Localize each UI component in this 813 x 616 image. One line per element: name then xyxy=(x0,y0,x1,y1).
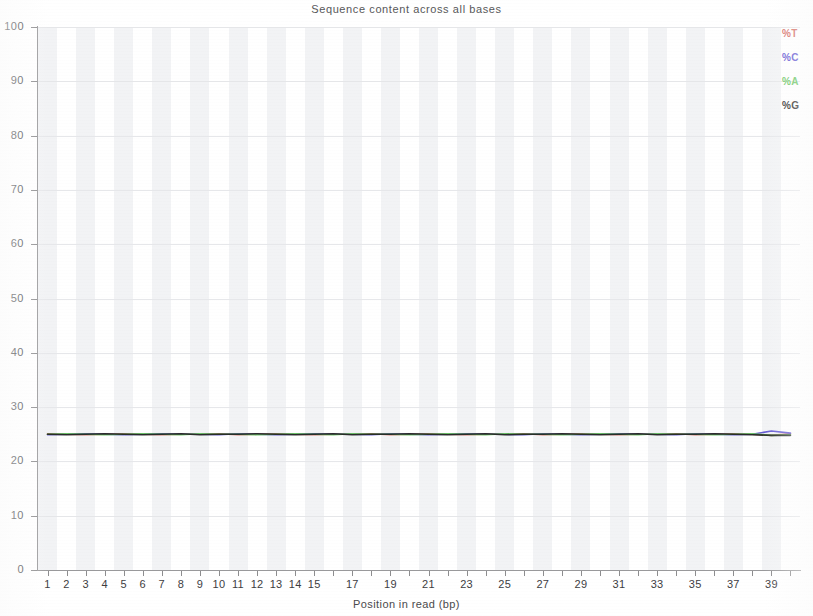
x-tick-label: 14 xyxy=(289,578,302,590)
x-tick-label: 13 xyxy=(270,578,283,590)
legend-item-pct-C: %C xyxy=(782,52,799,63)
x-tick-mark xyxy=(448,571,449,576)
x-tick-label: 25 xyxy=(498,578,511,590)
x-tick-mark xyxy=(314,571,315,576)
x-tick-label: 11 xyxy=(232,578,244,590)
y-tick-mark xyxy=(31,570,37,571)
y-tick-label: 0 xyxy=(0,563,24,575)
x-tick-label: 2 xyxy=(63,578,69,590)
x-tick-mark xyxy=(638,571,639,576)
x-tick-mark xyxy=(657,571,658,576)
x-tick-mark xyxy=(676,571,677,576)
x-tick-label: 39 xyxy=(765,578,778,590)
y-tick-label: 20 xyxy=(0,454,24,466)
x-tick-mark xyxy=(276,571,277,576)
y-tick-mark xyxy=(31,407,37,408)
x-tick-label: 35 xyxy=(689,578,702,590)
x-tick-mark xyxy=(771,571,772,576)
y-tick-label: 70 xyxy=(0,183,24,195)
x-tick-mark xyxy=(371,571,372,576)
chart-title: Sequence content across all bases xyxy=(0,3,813,15)
y-tick-mark xyxy=(31,461,37,462)
x-tick-label: 33 xyxy=(651,578,664,590)
x-tick-label: 12 xyxy=(251,578,264,590)
x-tick-label: 37 xyxy=(727,578,740,590)
y-tick-label: 90 xyxy=(0,74,24,86)
x-tick-mark xyxy=(714,571,715,576)
x-tick-mark xyxy=(390,571,391,576)
y-tick-label: 50 xyxy=(0,292,24,304)
x-tick-mark xyxy=(162,571,163,576)
y-tick-label: 100 xyxy=(0,20,24,32)
x-tick-mark xyxy=(695,571,696,576)
x-tick-mark xyxy=(600,571,601,576)
x-tick-mark xyxy=(219,571,220,576)
x-tick-label: 15 xyxy=(308,578,321,590)
y-tick-mark xyxy=(31,299,37,300)
x-tick-label: 5 xyxy=(121,578,127,590)
x-tick-label: 23 xyxy=(460,578,473,590)
y-tick-label: 60 xyxy=(0,237,24,249)
y-tick-label: 40 xyxy=(0,346,24,358)
x-axis-title: Position in read (bp) xyxy=(0,598,813,610)
x-tick-label: 9 xyxy=(197,578,203,590)
plot-area xyxy=(38,27,800,570)
y-tick-mark xyxy=(31,136,37,137)
legend-item-pct-G: %G xyxy=(782,100,799,111)
series-lines xyxy=(38,27,800,570)
x-tick-mark xyxy=(562,571,563,576)
y-tick-label: 30 xyxy=(0,400,24,412)
legend-item-pct-T: %T xyxy=(782,28,798,39)
x-tick-mark xyxy=(86,571,87,576)
x-tick-mark xyxy=(238,571,239,576)
x-tick-label: 27 xyxy=(536,578,549,590)
x-tick-mark xyxy=(143,571,144,576)
y-tick-mark xyxy=(31,516,37,517)
x-tick-mark xyxy=(752,571,753,576)
x-tick-label: 8 xyxy=(178,578,184,590)
x-tick-label: 6 xyxy=(140,578,146,590)
x-tick-mark xyxy=(48,571,49,576)
x-tick-label: 21 xyxy=(422,578,435,590)
x-tick-label: 31 xyxy=(613,578,626,590)
x-tick-mark xyxy=(200,571,201,576)
y-tick-mark xyxy=(31,27,37,28)
x-tick-label: 17 xyxy=(346,578,359,590)
x-tick-mark xyxy=(524,571,525,576)
y-tick-mark xyxy=(31,244,37,245)
y-tick-label: 10 xyxy=(0,509,24,521)
x-tick-mark xyxy=(67,571,68,576)
x-tick-label: 7 xyxy=(159,578,165,590)
x-tick-mark xyxy=(467,571,468,576)
x-tick-mark xyxy=(429,571,430,576)
x-tick-mark xyxy=(790,571,791,576)
x-tick-mark xyxy=(181,571,182,576)
x-tick-label: 29 xyxy=(575,578,588,590)
fastqc-sequence-content-chart: Sequence content across all bases 010203… xyxy=(0,0,813,616)
x-tick-label: 1 xyxy=(44,578,50,590)
x-tick-label: 10 xyxy=(213,578,226,590)
x-tick-mark xyxy=(105,571,106,576)
x-tick-mark xyxy=(733,571,734,576)
y-tick-label: 80 xyxy=(0,129,24,141)
x-axis-line xyxy=(37,570,801,571)
x-tick-label: 3 xyxy=(82,578,88,590)
x-tick-mark xyxy=(333,571,334,576)
x-tick-mark xyxy=(619,571,620,576)
x-tick-mark xyxy=(352,571,353,576)
x-tick-mark xyxy=(257,571,258,576)
x-tick-mark xyxy=(124,571,125,576)
x-tick-mark xyxy=(543,571,544,576)
legend-item-pct-A: %A xyxy=(782,76,799,87)
x-tick-mark xyxy=(295,571,296,576)
legend: %T%C%A%G xyxy=(764,28,810,111)
x-tick-mark xyxy=(486,571,487,576)
x-tick-label: 19 xyxy=(384,578,397,590)
x-tick-label: 4 xyxy=(101,578,107,590)
x-tick-mark xyxy=(409,571,410,576)
y-tick-mark xyxy=(31,353,37,354)
y-tick-mark xyxy=(31,190,37,191)
x-tick-mark xyxy=(505,571,506,576)
x-tick-mark xyxy=(581,571,582,576)
y-tick-mark xyxy=(31,81,37,82)
